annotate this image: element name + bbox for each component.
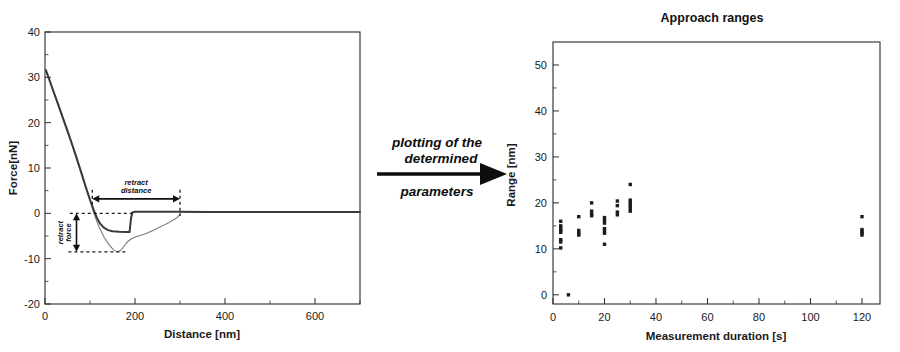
- right-arrow-icon: [377, 163, 507, 185]
- x-tick-label: 200: [126, 310, 144, 322]
- data-point: [567, 293, 570, 296]
- data-point: [603, 221, 606, 224]
- data-point: [860, 233, 863, 236]
- data-point: [559, 231, 562, 234]
- data-point: [590, 214, 593, 217]
- data-point: [559, 240, 562, 243]
- data-point: [616, 199, 619, 202]
- y-tick-label: 40: [28, 26, 40, 38]
- data-point: [603, 243, 606, 246]
- x-tick-label: 20: [598, 311, 610, 323]
- force-distance-svg: -20-10010203040 0200400600 retractdistan…: [0, 0, 400, 352]
- data-point: [629, 209, 632, 212]
- data-point: [629, 183, 632, 186]
- plot-frame: [45, 32, 360, 304]
- y-tick-label: 20: [28, 117, 40, 129]
- figure-container: -20-10010203040 0200400600 retractdistan…: [0, 0, 900, 352]
- y-tick-label: 20: [535, 197, 547, 209]
- approach-ranges-chart: Approach ranges 01020304050 020406080100…: [490, 0, 900, 352]
- y-tick-label: 50: [535, 59, 547, 71]
- y-tick-label: 10: [28, 162, 40, 174]
- data-point: [603, 232, 606, 235]
- x-axis-title: Distance [nm]: [164, 328, 240, 340]
- approach-ranges-svg: Approach ranges 01020304050 020406080100…: [490, 0, 900, 352]
- retract-distance-label-line2: distance: [121, 186, 151, 195]
- x-axis-title: Measurement duration [s]: [646, 330, 787, 342]
- data-point: [577, 233, 580, 236]
- x-tick-label: 120: [853, 311, 871, 323]
- y-axis-title: Range [nm]: [505, 143, 517, 206]
- x-tick-label: 80: [753, 311, 765, 323]
- y-axis-title: Force[nN]: [7, 141, 19, 195]
- y-tick-label: 0: [34, 207, 40, 219]
- x-tick-label: 0: [550, 311, 556, 323]
- plot-frame: [553, 42, 880, 304]
- flow-label-line3: parameters: [400, 184, 474, 199]
- force-distance-chart: -20-10010203040 0200400600 retractdistan…: [0, 0, 400, 352]
- flow-label-line2: determined: [405, 151, 479, 166]
- data-point: [577, 215, 580, 218]
- x-tick-label: 600: [306, 310, 324, 322]
- flow-label-line1: plotting of the: [391, 135, 482, 150]
- x-tick-label: 40: [650, 311, 662, 323]
- y-tick-label: -10: [24, 253, 40, 265]
- data-point: [590, 201, 593, 204]
- data-point: [559, 220, 562, 223]
- data-point: [616, 213, 619, 216]
- data-point: [616, 204, 619, 207]
- data-point: [860, 215, 863, 218]
- x-tick-label: 400: [216, 310, 234, 322]
- x-tick-label: 60: [701, 311, 713, 323]
- y-tick-label: -20: [24, 298, 40, 310]
- y-tick-label: 40: [535, 105, 547, 117]
- retract-force-label-line2: force: [65, 223, 74, 241]
- data-point: [559, 246, 562, 249]
- y-tick-label: 30: [28, 71, 40, 83]
- y-tick-label: 0: [541, 289, 547, 301]
- x-tick-label: 0: [42, 310, 48, 322]
- chart-title: Approach ranges: [661, 11, 764, 25]
- x-tick-label: 100: [801, 311, 819, 323]
- y-tick-label: 10: [535, 243, 547, 255]
- y-tick-label: 30: [535, 151, 547, 163]
